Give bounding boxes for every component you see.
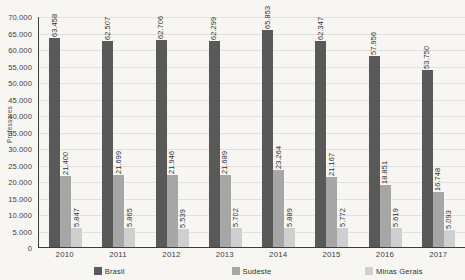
y-axis-tick-label: 70.000: [8, 13, 32, 22]
bar-value-label-text: 21.699: [113, 151, 122, 174]
bar-value-label-text: 62.299: [209, 17, 218, 40]
y-axis-tick-label: 60.000: [8, 46, 32, 55]
bar-slot: 5.093: [444, 17, 455, 247]
bar-value-label: 62.706: [152, 16, 161, 39]
bar-value-label: 21.689: [216, 151, 225, 174]
bar-value-label-text: 62.347: [315, 17, 324, 40]
bar-group: 62.34721.1675.772: [305, 17, 358, 247]
x-axis-tick-label: 2017: [412, 250, 465, 264]
bar[interactable]: 5.702: [231, 228, 242, 247]
bar-slot: 65.853: [262, 17, 273, 247]
bar-slot: 62.706: [156, 17, 167, 247]
bar-value-label-text: 65.853: [262, 5, 271, 28]
bar-value-label-text: 62.706: [156, 16, 165, 39]
bar-value-label: 23.264: [270, 146, 279, 169]
bar-value-label: 21.400: [57, 152, 66, 175]
bar[interactable]: 5.889: [284, 228, 295, 247]
bar-value-label-text: 5.619: [391, 208, 400, 227]
bar-value-label: 16.748: [429, 168, 438, 191]
bar-value-label-text: 5.889: [284, 208, 293, 227]
bar-group-bars: 57.95618.8515.619: [359, 17, 412, 247]
bar-value-label: 62.507: [99, 17, 108, 40]
bar-value-label: 53.750: [418, 45, 427, 68]
bar-group: 57.95618.8515.619: [359, 17, 412, 247]
legend-color-swatch: [94, 267, 102, 275]
y-axis-tick-label: 40.000: [8, 112, 32, 121]
bar-value-label-text: 21.400: [60, 152, 69, 175]
bar-value-label-text: 21.689: [220, 151, 229, 174]
bar-group: 62.50721.6995.865: [92, 17, 145, 247]
bar-value-label: 21.167: [323, 153, 332, 176]
bar-group: 63.45821.4005.847: [39, 17, 92, 247]
bar-group: 53.75016.7485.093: [412, 17, 465, 247]
bar-value-label: 5.772: [334, 208, 343, 227]
legend-item[interactable]: Minas Gerais: [323, 267, 465, 276]
bar-group: 62.70621.9465.539: [146, 17, 199, 247]
y-axis-tick-label: 20.000: [8, 178, 32, 187]
bar[interactable]: 5.772: [337, 228, 348, 247]
y-axis-tick-labels: 70.00065.00060.00055.00050.00045.00040.0…: [0, 0, 36, 265]
bar[interactable]: 5.865: [124, 228, 135, 247]
y-axis-tick-label: 45.000: [8, 95, 32, 104]
chart-legend: BrasilSudesteMinas Gerais: [38, 264, 465, 278]
legend-item[interactable]: Brasil: [38, 267, 180, 276]
y-axis-tick-label: 15.000: [8, 194, 32, 203]
bar[interactable]: 5.619: [391, 228, 402, 247]
bar-value-label: 5.865: [121, 208, 130, 227]
bar[interactable]: 65.853: [262, 30, 273, 247]
bar[interactable]: 57.956: [369, 56, 380, 247]
bar-value-label-text: 53.750: [422, 45, 431, 68]
legend-item[interactable]: Sudeste: [180, 267, 322, 276]
bar-group-bars: 65.85323.2645.889: [252, 17, 305, 247]
bar-slot: 57.956: [369, 17, 380, 247]
plot-area: 63.45821.4005.84762.50721.6995.86562.706…: [38, 17, 465, 248]
x-axis-tick-label: 2010: [38, 250, 91, 264]
bar-value-label: 5.093: [440, 210, 449, 229]
bar-value-label: 5.539: [174, 209, 183, 228]
bar-value-label: 5.619: [387, 208, 396, 227]
bar-slot: 62.299: [209, 17, 220, 247]
bar-value-label-text: 5.865: [124, 208, 133, 227]
bar[interactable]: 62.347: [315, 41, 326, 247]
bar[interactable]: 62.507: [102, 41, 113, 247]
bar-value-label-text: 62.507: [102, 17, 111, 40]
bar-value-label: 21.946: [163, 150, 172, 173]
bar-value-label: 18.851: [376, 161, 385, 184]
bar[interactable]: 62.299: [209, 41, 220, 247]
x-axis-tick-labels: 20102011201220132014201520162017: [38, 250, 465, 264]
bar-slot: 5.889: [284, 17, 295, 247]
legend-item-label: Brasil: [105, 267, 125, 276]
bar-slot: 63.458: [49, 17, 60, 247]
bar-value-label: 62.299: [205, 17, 214, 40]
bar-group-bars: 62.50721.6995.865: [92, 17, 145, 247]
y-axis-tick-label: 55.000: [8, 62, 32, 71]
bar-slot: 5.865: [124, 17, 135, 247]
bar[interactable]: 5.539: [178, 229, 189, 247]
bar-group: 62.29921.6895.702: [199, 17, 252, 247]
bar-group-bars: 62.34721.1675.772: [305, 17, 358, 247]
bar[interactable]: 5.093: [444, 230, 455, 247]
y-axis-tick-label: 65.000: [8, 29, 32, 38]
bar[interactable]: 63.458: [49, 38, 60, 247]
bar[interactable]: 62.706: [156, 40, 167, 247]
bar-value-label-text: 21.167: [326, 153, 335, 176]
y-axis-tick-label: 5.000: [12, 227, 32, 236]
bar-slot: 62.507: [102, 17, 113, 247]
bar-slot: 5.847: [71, 17, 82, 247]
bar-slot: 5.619: [391, 17, 402, 247]
bar-value-label-text: 16.748: [433, 168, 442, 191]
bar[interactable]: 5.847: [71, 228, 82, 247]
bar-value-label: 57.956: [365, 32, 374, 55]
bar[interactable]: 53.750: [422, 70, 433, 247]
bar-groups: 63.45821.4005.84762.50721.6995.86562.706…: [39, 17, 465, 247]
y-axis-tick-label: 35.000: [8, 128, 32, 137]
y-axis-tick-label: 30.000: [8, 145, 32, 154]
bar-value-label-text: 5.539: [178, 209, 187, 228]
x-axis-tick-label: 2012: [145, 250, 198, 264]
bar-value-label-text: 57.956: [369, 32, 378, 55]
bar-group: 65.85323.2645.889: [252, 17, 305, 247]
bar-group-bars: 62.70621.9465.539: [146, 17, 199, 247]
x-axis-tick-label: 2015: [305, 250, 358, 264]
x-axis-tick-label: 2013: [198, 250, 251, 264]
bar-value-label: 62.347: [312, 17, 321, 40]
